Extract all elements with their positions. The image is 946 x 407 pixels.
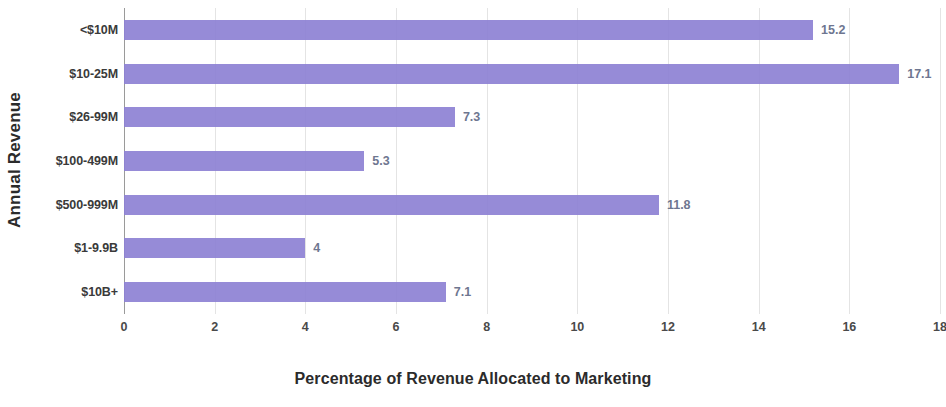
bar-value-label: 4 [313,241,320,255]
x-tick-label: 4 [302,320,309,334]
bar-row: 4 [124,238,940,258]
bar [124,64,899,84]
x-tick-label: 18 [933,320,946,334]
bar-value-label: 7.1 [454,285,471,299]
bar-value-label: 7.3 [463,110,480,124]
bar-value-label: 17.1 [907,67,931,81]
category-label: $100-499M [30,154,118,168]
bar-row: 7.3 [124,107,940,127]
y-axis-title: Annual Revenue [0,0,30,320]
bar-row: 5.3 [124,151,940,171]
category-label-column: <$10M$10-25M$26-99M$100-499M$500-999M$1-… [30,8,118,314]
x-axis-title: Percentage of Revenue Allocated to Marke… [0,370,946,388]
category-label: $10-25M [30,67,118,81]
bar-row: 7.1 [124,282,940,302]
bar [124,282,446,302]
x-tick-label: 16 [842,320,856,334]
bar [124,195,659,215]
category-label: $1-9.9B [30,241,118,255]
x-tick-label: 2 [211,320,218,334]
category-label: <$10M [30,23,118,37]
bar [124,107,455,127]
x-tick-label: 14 [752,320,766,334]
x-tick-label: 6 [393,320,400,334]
bar [124,20,813,40]
bar-value-label: 11.8 [667,198,691,212]
x-tick-label: 10 [570,320,584,334]
gridline [940,8,941,314]
bar-value-label: 15.2 [821,23,845,37]
bar [124,151,364,171]
bar-chart: Annual Revenue <$10M$10-25M$26-99M$100-4… [0,0,946,407]
x-axis-ticks: 024681012141618 [124,320,940,344]
category-label: $26-99M [30,110,118,124]
x-tick-label: 0 [121,320,128,334]
x-tick-label: 12 [661,320,675,334]
y-axis-title-label: Annual Revenue [5,92,25,228]
category-label: $10B+ [30,285,118,299]
bar [124,238,305,258]
bar-value-label: 5.3 [372,154,389,168]
bar-row: 17.1 [124,64,940,84]
plot-area: 15.217.17.35.311.847.1 [124,8,940,314]
bar-row: 11.8 [124,195,940,215]
x-tick-label: 8 [483,320,490,334]
category-label: $500-999M [30,198,118,212]
bar-row: 15.2 [124,20,940,40]
